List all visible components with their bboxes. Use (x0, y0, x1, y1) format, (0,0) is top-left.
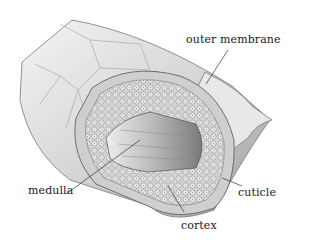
label-cuticle: cuticle (238, 186, 276, 199)
label-cortex: cortex (181, 219, 217, 232)
label-medulla: medulla (28, 184, 73, 197)
label-outer-membrane: outer membrane (186, 33, 281, 46)
